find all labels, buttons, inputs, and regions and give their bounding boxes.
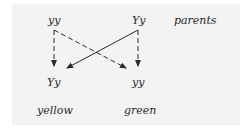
offspring-left-genotype: Yy	[47, 76, 60, 89]
phenotype-right-label: green	[124, 104, 156, 117]
arrow-left-diagonal-dashed	[54, 30, 126, 68]
parent-left-genotype: yy	[48, 14, 60, 27]
offspring-right-genotype: yy	[132, 76, 144, 89]
parent-right-genotype: Yy	[132, 14, 145, 27]
arrow-right-diagonal-solid	[67, 30, 138, 68]
parents-row-label: parents	[174, 14, 217, 27]
phenotype-left-label: yellow	[37, 104, 73, 117]
